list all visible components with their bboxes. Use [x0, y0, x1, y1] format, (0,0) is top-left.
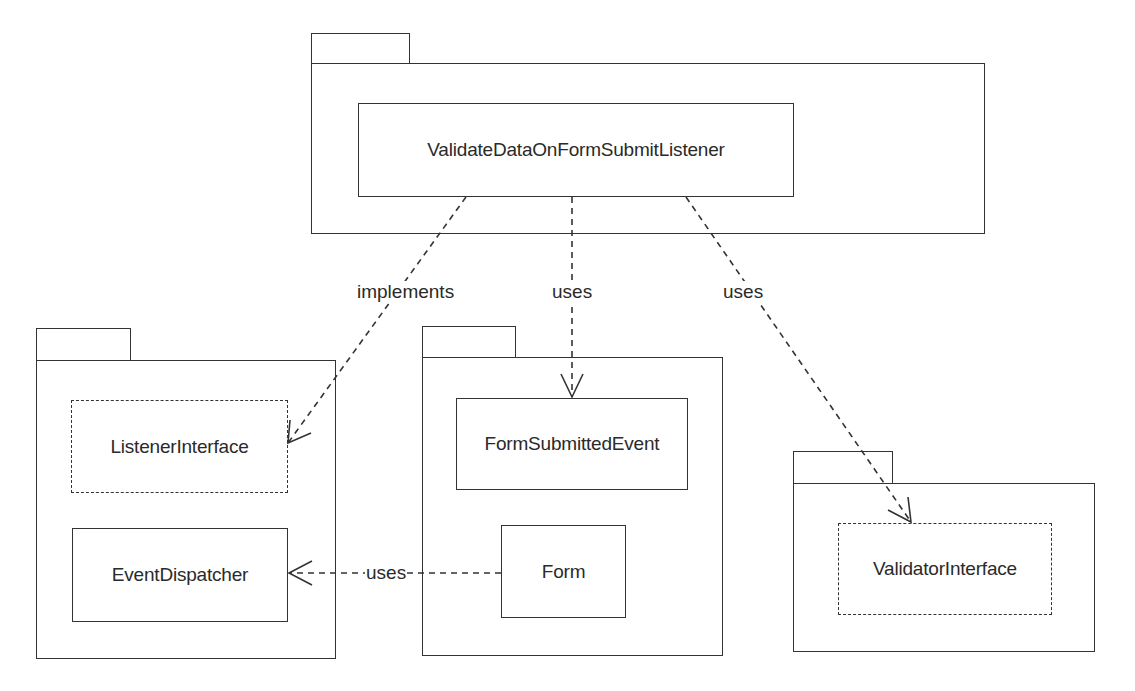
- interface-name: ValidatorInterface: [873, 558, 1017, 580]
- relation-label-uses-right: uses: [722, 281, 764, 303]
- class-form[interactable]: Form: [501, 525, 626, 618]
- class-name: FormSubmittedEvent: [485, 433, 660, 455]
- package-tab-top: [311, 33, 410, 65]
- class-name: Form: [542, 561, 586, 583]
- interface-validator-interface[interactable]: ValidatorInterface: [838, 523, 1052, 615]
- interface-listener-interface[interactable]: ListenerInterface: [71, 400, 288, 493]
- relation-label-uses-middle: uses: [551, 281, 593, 303]
- class-name: EventDispatcher: [112, 564, 248, 586]
- package-tab-middle: [422, 326, 516, 359]
- relation-label-implements: implements: [356, 281, 455, 303]
- interface-name: ListenerInterface: [110, 436, 248, 458]
- class-form-submitted-event[interactable]: FormSubmittedEvent: [456, 398, 688, 490]
- relation-label-uses-form: uses: [365, 562, 407, 584]
- class-event-dispatcher[interactable]: EventDispatcher: [72, 528, 288, 622]
- class-name: ValidateDataOnFormSubmitListener: [427, 139, 724, 161]
- package-tab-left: [36, 328, 131, 362]
- class-validate-data-on-form-submit-listener[interactable]: ValidateDataOnFormSubmitListener: [358, 103, 794, 197]
- package-tab-right: [793, 451, 893, 485]
